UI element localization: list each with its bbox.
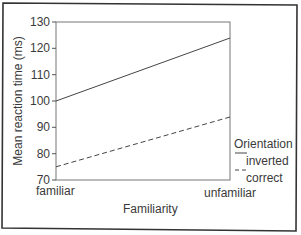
chart: 130 120 110 100 90 80 70 Mean reaction t… [0,0,301,235]
y-axis-label: Mean reaction time (ms) [11,36,25,165]
y-tick-80: 80 [37,147,51,161]
x-category-familiar: familiar [36,184,75,198]
x-category-unfamiliar: unfamiliar [204,186,256,200]
plot-area [56,22,230,180]
y-ticks [52,22,56,180]
y-tick-130: 130 [30,15,50,29]
series-correct-line [56,117,230,167]
legend-title: Orientation [234,137,293,151]
legend-correct-label: correct [246,171,283,185]
y-tick-100: 100 [30,94,50,108]
series-inverted-line [56,38,230,101]
y-tick-90: 90 [37,120,51,134]
y-tick-110: 110 [31,68,50,82]
y-tick-120: 120 [30,41,50,55]
x-axis-label: Familiarity [123,202,178,216]
legend: Orientation inverted correct [234,137,293,185]
legend-inverted-label: inverted [246,154,289,168]
